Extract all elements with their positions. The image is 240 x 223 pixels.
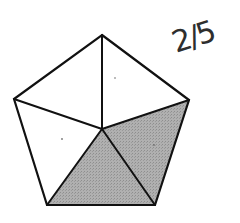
pentagon-fraction-diagram: 2/5 (0, 0, 240, 223)
